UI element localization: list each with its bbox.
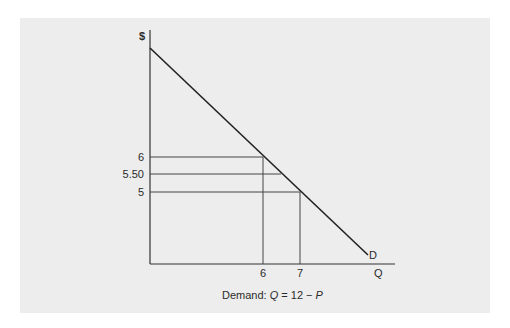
x-tick-6: 6	[260, 267, 266, 279]
caption-prefix: Demand:	[222, 289, 270, 301]
caption-equation: = 12 −	[278, 289, 315, 301]
demand-line	[150, 48, 368, 255]
x-axis-label: Q	[374, 267, 383, 279]
y-tick-6: 6	[138, 151, 144, 163]
demand-chart: $ Q 6 5.50 5 6 7 D Demand: Q = 12 − P	[0, 0, 510, 328]
caption-var-p: P	[316, 289, 324, 301]
chart-caption: Demand: Q = 12 − P	[222, 289, 324, 301]
y-tick-5-50: 5.50	[123, 168, 144, 180]
y-axis-label: $	[139, 30, 145, 42]
y-tick-5: 5	[138, 186, 144, 198]
demand-curve-label: D	[369, 249, 377, 261]
x-tick-7: 7	[297, 267, 303, 279]
